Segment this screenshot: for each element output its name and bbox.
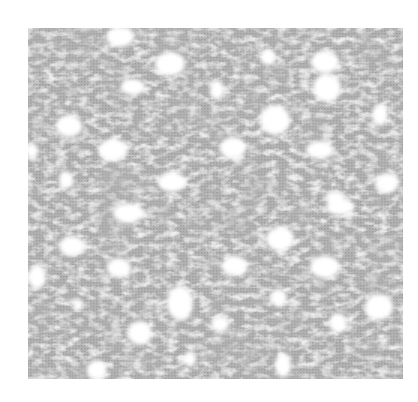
lace-hole bbox=[73, 299, 83, 311]
lace-hole bbox=[184, 351, 196, 367]
lace-hole bbox=[128, 321, 152, 345]
lace-hole bbox=[220, 137, 246, 159]
lace-hole bbox=[59, 236, 85, 256]
lace-hole bbox=[98, 139, 128, 161]
lace-hole bbox=[134, 209, 146, 219]
lace-hole bbox=[121, 79, 145, 95]
lace-hole bbox=[56, 115, 82, 137]
lace-hole bbox=[210, 80, 224, 100]
lace-hole bbox=[222, 256, 248, 276]
lace-hole bbox=[329, 313, 347, 333]
lace-hole bbox=[107, 258, 131, 278]
lace-hole bbox=[375, 173, 399, 193]
lace-hole bbox=[372, 104, 388, 126]
lace-hole bbox=[212, 317, 224, 327]
lace-hole bbox=[260, 105, 290, 135]
lace-hole bbox=[326, 199, 354, 215]
lace-hole bbox=[365, 294, 393, 320]
lace-hole bbox=[275, 353, 291, 377]
fabric bbox=[26, 27, 403, 380]
lace-hole bbox=[313, 74, 341, 102]
lace-hole bbox=[260, 49, 276, 65]
lace-hole bbox=[271, 289, 287, 307]
lace-hole bbox=[155, 52, 185, 76]
lace-hole bbox=[167, 286, 193, 320]
lace-hole bbox=[59, 171, 73, 189]
lace-hole bbox=[87, 360, 107, 380]
lace-hole bbox=[158, 172, 186, 192]
lace-hole bbox=[28, 265, 46, 289]
lace-hole bbox=[310, 256, 340, 278]
lace-hole bbox=[106, 27, 134, 47]
lace-hole bbox=[306, 141, 334, 159]
crochet-lace-photo bbox=[0, 0, 418, 402]
lace-hole bbox=[266, 227, 294, 251]
lace-hole bbox=[311, 51, 339, 73]
